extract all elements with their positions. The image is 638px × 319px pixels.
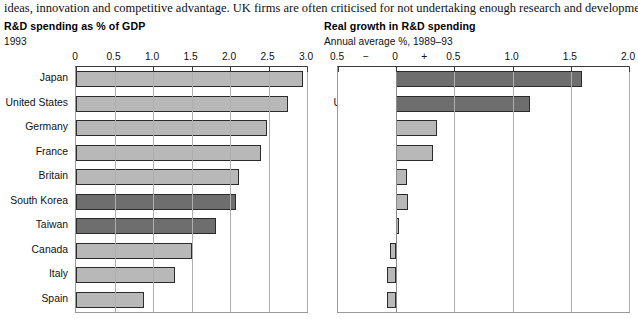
bar <box>396 194 408 210</box>
axis-tick-label: 1.5 <box>563 51 577 62</box>
bar <box>76 194 236 210</box>
right-chart-subtitle: Annual average %, 1989–93 <box>324 36 453 47</box>
bar <box>76 267 175 283</box>
right-axis-tick-labels: 0.5−0+0.51.01.52.0 <box>320 51 638 65</box>
gridline <box>513 67 514 312</box>
axis-tick-label: 0 <box>72 51 78 62</box>
category-label: Japan <box>40 73 68 83</box>
axis-tick-label: + <box>421 51 427 62</box>
axis-tickmark <box>396 67 397 72</box>
axis-tickmark <box>454 67 455 72</box>
bar <box>76 243 192 259</box>
bar <box>387 267 396 283</box>
axis-tick-label: 0.5 <box>106 51 120 62</box>
gridline <box>192 67 193 312</box>
axis-tickmark <box>513 67 514 72</box>
gridline <box>153 67 154 312</box>
axis-tick-label: 3.0 <box>299 51 313 62</box>
panel-rd-spending-share-gdp: R&D spending as % of GDP 1993 00.51.01.5… <box>0 0 320 319</box>
gridline <box>629 67 630 312</box>
axis-tickmark <box>307 67 308 72</box>
axis-tick-label: − <box>363 51 369 62</box>
left-chart-subtitle: 1993 <box>4 36 27 47</box>
panel-real-growth-rd-spending: Real growth in R&D spending Annual avera… <box>320 0 638 319</box>
bar <box>396 120 437 136</box>
gridline <box>230 67 231 312</box>
bar <box>387 292 396 308</box>
axis-tick-label: 2.0 <box>621 51 635 62</box>
category-label: Spain <box>41 294 68 304</box>
gridline <box>571 67 572 312</box>
axis-tick-label: 2.0 <box>222 51 236 62</box>
bar <box>76 145 261 161</box>
bar <box>396 169 406 185</box>
axis-tickmark <box>571 67 572 72</box>
gridline <box>115 67 116 312</box>
axis-tickmark <box>338 67 339 72</box>
category-label: United States <box>6 98 68 108</box>
left-plot-area <box>75 66 308 313</box>
left-axis-tick-labels: 00.51.01.52.02.53.0 <box>0 51 320 65</box>
category-label: South Korea <box>10 196 68 206</box>
axis-tick-label: 0.5 <box>446 51 460 62</box>
bar <box>76 96 288 112</box>
gridline <box>396 67 397 312</box>
left-chart-title: R&D spending as % of GDP <box>4 20 145 32</box>
bar <box>76 218 216 234</box>
axis-tickmark <box>269 67 270 72</box>
gridline <box>269 67 270 312</box>
axis-tick-label: 2.5 <box>260 51 274 62</box>
bar <box>396 145 433 161</box>
bar <box>76 169 239 185</box>
left-category-labels: JapanUnited StatesGermanyFranceBritainSo… <box>0 66 72 313</box>
axis-tickmark <box>230 67 231 72</box>
bar <box>396 96 530 112</box>
chart-page: ideas, innovation and competitive advant… <box>0 0 638 319</box>
bar <box>76 292 144 308</box>
category-label: France <box>36 147 68 157</box>
axis-tick-label: 1.5 <box>183 51 197 62</box>
axis-tick-label: 1.0 <box>145 51 159 62</box>
axis-tick-label: 1.0 <box>505 51 519 62</box>
right-chart-title: Real growth in R&D spending <box>324 20 476 32</box>
category-label: Britain <box>39 171 68 181</box>
category-label: Taiwan <box>36 220 68 230</box>
axis-tick-label: 0 <box>392 51 398 62</box>
axis-tick-label: 0.5 <box>330 51 344 62</box>
bar <box>396 71 582 87</box>
axis-tickmark <box>629 67 630 72</box>
axis-tickmark <box>115 67 116 72</box>
bar <box>76 120 267 136</box>
right-plot-area <box>337 66 630 313</box>
category-label: Germany <box>25 122 68 132</box>
category-label: Italy <box>49 269 68 279</box>
axis-tickmark <box>153 67 154 72</box>
axis-tickmark <box>76 67 77 72</box>
axis-tickmark <box>192 67 193 72</box>
category-label: Canada <box>32 245 68 255</box>
gridline <box>454 67 455 312</box>
gridline <box>307 67 308 312</box>
